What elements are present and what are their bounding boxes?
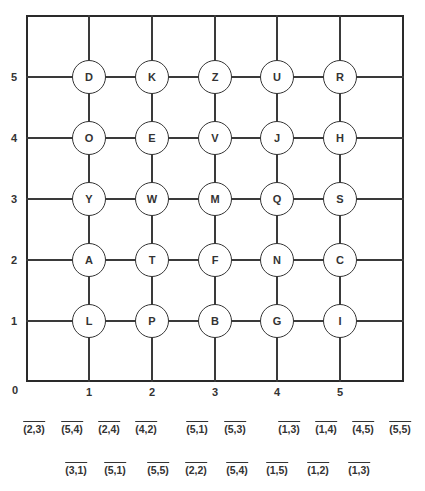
x-tick-0: 0 bbox=[12, 384, 18, 396]
answer-blank: (1,3) bbox=[348, 462, 370, 476]
x-tick-3: 3 bbox=[212, 386, 218, 398]
x-tick-1: 1 bbox=[86, 386, 92, 398]
y-tick-5: 5 bbox=[11, 71, 17, 83]
letter-node: S bbox=[323, 182, 357, 216]
answer-blank: (5,1) bbox=[186, 421, 208, 435]
answer-blank: (4,5) bbox=[352, 421, 374, 435]
x-tick-5: 5 bbox=[337, 386, 343, 398]
x-tick-2: 2 bbox=[149, 386, 155, 398]
answer-blank: (1,4) bbox=[315, 421, 337, 435]
answer-blank: (5,3) bbox=[224, 421, 246, 435]
answer-blank: (3,1) bbox=[65, 462, 87, 476]
letter-node: T bbox=[135, 243, 169, 277]
letter-node: U bbox=[260, 60, 294, 94]
letter-node: I bbox=[323, 304, 357, 338]
letter-node: G bbox=[260, 304, 294, 338]
letter-node: D bbox=[72, 60, 106, 94]
answer-blank: (2,4) bbox=[98, 421, 120, 435]
x-tick-4: 4 bbox=[274, 386, 280, 398]
answer-blank: (5,4) bbox=[61, 421, 83, 435]
letter-node: M bbox=[198, 182, 232, 216]
letter-node: F bbox=[198, 243, 232, 277]
answer-blank: (5,5) bbox=[147, 462, 169, 476]
answer-blank: (5,4) bbox=[226, 462, 248, 476]
letter-node: W bbox=[135, 182, 169, 216]
letter-node: J bbox=[260, 121, 294, 155]
answer-blank: (5,5) bbox=[389, 421, 411, 435]
answer-blank: (4,2) bbox=[135, 421, 157, 435]
letter-node: A bbox=[72, 243, 106, 277]
letter-node: V bbox=[198, 121, 232, 155]
letter-node: P bbox=[135, 304, 169, 338]
letter-node: Q bbox=[260, 182, 294, 216]
letter-node: K bbox=[135, 60, 169, 94]
letter-node: Y bbox=[72, 182, 106, 216]
answer-blank: (1,3) bbox=[278, 421, 300, 435]
answer-blank: (1,2) bbox=[307, 462, 329, 476]
letter-node: L bbox=[72, 304, 106, 338]
answer-blank: (5,1) bbox=[104, 462, 126, 476]
letter-node: B bbox=[198, 304, 232, 338]
y-tick-1: 1 bbox=[11, 315, 17, 327]
letter-node: R bbox=[323, 60, 357, 94]
answer-blank: (2,3) bbox=[23, 421, 45, 435]
letter-node: N bbox=[260, 243, 294, 277]
y-tick-4: 4 bbox=[11, 132, 17, 144]
letter-node: H bbox=[323, 121, 357, 155]
y-tick-2: 2 bbox=[11, 254, 17, 266]
letter-node: E bbox=[135, 121, 169, 155]
coordinate-grid-puzzle: 5 4 3 2 1 0 1 2 3 4 5 D K Z U R O E V J … bbox=[0, 0, 425, 491]
letter-node: O bbox=[72, 121, 106, 155]
letter-node: Z bbox=[198, 60, 232, 94]
answer-blank: (1,5) bbox=[266, 462, 288, 476]
answer-blank: (2,2) bbox=[185, 462, 207, 476]
y-tick-3: 3 bbox=[11, 193, 17, 205]
letter-node: C bbox=[323, 243, 357, 277]
